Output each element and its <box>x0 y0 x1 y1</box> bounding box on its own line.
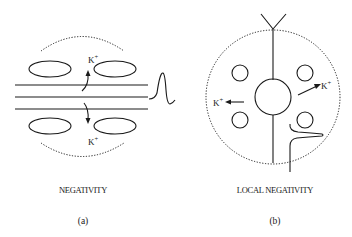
small-cell-top-right <box>297 65 313 81</box>
cell-top-right <box>94 61 136 77</box>
caption-a: NEGATIVITY <box>59 185 107 195</box>
arrowhead-left-icon <box>225 100 231 105</box>
sublabel-b: (b) <box>269 216 280 227</box>
diagram-canvas: K+ K+ K+ K+ NEGATIVITY LOCAL NEGATIVITY … <box>0 0 352 237</box>
arrowhead-up-icon <box>86 70 91 76</box>
arrow-right-line <box>298 86 317 95</box>
dotted-arc-top <box>41 37 124 52</box>
panel-b <box>206 14 340 172</box>
ion-label-b-left: K+ <box>213 96 224 108</box>
dotted-arc-bottom <box>41 143 124 157</box>
cell-bottom-left <box>29 118 71 134</box>
curved-arrow-down-icon <box>84 103 88 120</box>
ion-label-b-right: K+ <box>321 79 332 91</box>
caption-b: LOCAL NEGATIVITY <box>237 185 313 195</box>
soma-circle <box>255 79 291 115</box>
recording-waveform <box>290 124 323 172</box>
ion-label-a-bottom: K+ <box>88 135 99 147</box>
curved-arrow-up-icon <box>82 74 88 91</box>
arrowhead-right-icon <box>314 84 321 89</box>
small-cell-bottom-right <box>297 112 313 128</box>
sublabel-a: (a) <box>78 216 89 227</box>
dendrite-y <box>261 14 286 29</box>
cell-bottom-right <box>94 118 136 134</box>
spike-waveform <box>149 73 175 104</box>
ion-label-a-top: K+ <box>88 53 99 65</box>
small-cell-bottom-left <box>232 112 248 128</box>
arrowhead-down-icon <box>86 118 91 124</box>
cell-top-left <box>29 61 71 77</box>
small-cell-top-left <box>232 65 248 81</box>
